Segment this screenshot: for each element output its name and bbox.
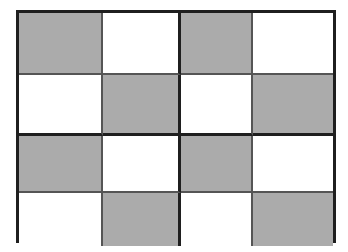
- grid-cell-r2c3: [181, 75, 253, 136]
- grid-cell-r3c1: [19, 136, 103, 193]
- grid-cell-r3c2: [103, 136, 181, 193]
- grid-cell-r3c3: [181, 136, 253, 193]
- grid-cell-r4c2: [103, 193, 181, 246]
- grid-cell-r3c4: [253, 136, 333, 193]
- grid-cell-r4c1: [19, 193, 103, 246]
- checkerboard-grid: [16, 10, 336, 243]
- figure-canvas: [0, 0, 348, 252]
- grid-cell-r4c4: [253, 193, 333, 246]
- grid-cell-r2c4: [253, 75, 333, 136]
- grid-cell-r1c2: [103, 13, 181, 75]
- grid-cell-r2c1: [19, 75, 103, 136]
- grid-cell-r2c2: [103, 75, 181, 136]
- grid-cell-r4c3: [181, 193, 253, 246]
- grid-cell-r1c3: [181, 13, 253, 75]
- grid-cell-r1c4: [253, 13, 333, 75]
- grid-cell-r1c1: [19, 13, 103, 75]
